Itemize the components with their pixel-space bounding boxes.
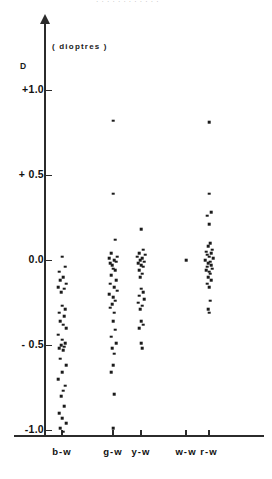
data-point	[58, 347, 61, 350]
data-point	[63, 315, 66, 318]
data-point	[110, 335, 113, 338]
data-point	[61, 305, 64, 308]
data-point	[211, 249, 214, 252]
data-point	[114, 238, 117, 241]
data-point	[61, 371, 64, 374]
data-point	[140, 228, 143, 231]
data-point	[63, 288, 66, 291]
data-point	[206, 283, 209, 286]
data-point	[110, 252, 113, 255]
data-point	[109, 306, 112, 309]
data-point	[207, 245, 210, 248]
data-point	[113, 286, 116, 289]
data-point	[140, 342, 143, 345]
x-axis-tick-label-b-w: b-w	[52, 446, 72, 457]
data-point	[110, 274, 113, 277]
data-point	[206, 266, 209, 269]
data-point	[115, 342, 118, 345]
data-point	[209, 242, 212, 245]
data-point	[204, 259, 207, 262]
data-point	[61, 417, 64, 420]
data-point	[141, 305, 144, 308]
data-point	[64, 385, 67, 388]
data-point	[108, 257, 111, 260]
data-point	[185, 259, 188, 262]
data-point	[115, 260, 118, 263]
data-point	[116, 289, 119, 292]
x-axis-tick-label-y-w: y-w	[131, 446, 150, 457]
data-point	[138, 269, 141, 272]
data-point	[64, 266, 67, 269]
y-axis-tick	[46, 345, 52, 347]
data-point	[139, 308, 142, 311]
data-point	[112, 427, 115, 430]
data-point	[57, 334, 60, 337]
y-axis-tick-label-wrap: -1.0	[0, 424, 44, 434]
x-axis-line	[14, 435, 264, 437]
data-point	[208, 286, 211, 289]
data-point	[59, 427, 62, 430]
data-point	[211, 267, 214, 270]
data-point	[210, 279, 213, 282]
y-axis-tick	[46, 430, 52, 432]
data-point	[113, 311, 116, 314]
x-axis-tick	[208, 430, 210, 437]
data-point	[58, 412, 61, 415]
y-axis-tick-label-wrap: + 0.5	[0, 169, 44, 179]
data-point	[141, 347, 144, 350]
scatter-plot-figure: · · · · · · · · · · · · ( dioptres ) D +…	[0, 0, 272, 479]
data-point	[112, 296, 115, 299]
data-point	[112, 320, 115, 323]
data-point	[111, 303, 114, 306]
data-point	[208, 192, 211, 195]
data-point	[115, 279, 118, 282]
data-point	[108, 293, 111, 296]
data-point	[142, 323, 145, 326]
data-point	[210, 252, 213, 255]
y-axis-tick-label: 0.0	[2, 254, 44, 264]
y-axis-unit-label: ( dioptres )	[52, 42, 108, 51]
data-point	[60, 395, 63, 398]
data-point	[144, 254, 147, 257]
y-axis-tick	[46, 175, 52, 177]
data-point	[207, 308, 210, 311]
x-axis-tick-label-g-w: g-w	[103, 446, 123, 457]
data-point	[142, 291, 145, 294]
data-point	[208, 255, 211, 258]
data-point	[58, 271, 61, 274]
data-point	[111, 347, 114, 350]
data-point	[64, 308, 67, 311]
data-point	[62, 323, 65, 326]
data-point	[209, 300, 212, 303]
data-point	[205, 250, 208, 253]
data-point	[61, 339, 64, 342]
data-point	[57, 378, 60, 381]
x-axis-tick-label-r-w: r-w	[200, 446, 218, 457]
data-point	[112, 192, 115, 195]
y-axis-tick	[46, 90, 52, 92]
data-point	[136, 255, 139, 258]
data-point	[63, 345, 66, 348]
data-point	[142, 249, 145, 252]
y-axis-line	[44, 22, 46, 436]
data-point	[114, 300, 117, 303]
data-point	[65, 327, 68, 330]
x-axis-tick	[112, 430, 114, 437]
data-point	[62, 349, 65, 352]
data-point	[57, 286, 60, 289]
x-axis-tick	[185, 430, 187, 437]
data-point	[65, 283, 68, 286]
data-point	[142, 266, 145, 269]
data-point	[210, 211, 213, 214]
y-axis-tick-label: - 0.5	[2, 339, 44, 349]
data-point	[138, 252, 141, 255]
data-point	[113, 393, 116, 396]
data-point	[140, 320, 143, 323]
data-point	[110, 371, 113, 374]
data-point	[109, 283, 112, 286]
data-point	[113, 352, 116, 355]
data-point	[59, 320, 62, 323]
data-point	[59, 357, 62, 360]
data-point	[61, 255, 64, 258]
data-point	[114, 328, 117, 331]
